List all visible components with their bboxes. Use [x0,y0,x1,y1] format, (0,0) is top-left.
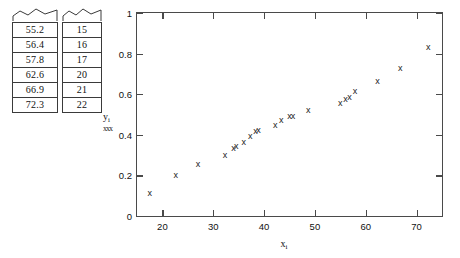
y-axis-tick [137,135,143,136]
y-axis-tick-label: 0.6 [119,89,132,100]
data-point-marker: x [240,139,247,146]
table-row: 15 [62,22,102,38]
y-axis-tick [436,54,442,55]
y-axis-tick [436,13,442,14]
data-point-marker: x [374,78,381,85]
y-axis-tick-label: 1 [127,8,132,19]
y-axis-tick [436,175,442,176]
data-point-marker: x [230,145,237,152]
data-point-marker: x [337,100,344,107]
x-axis-tick [315,210,316,216]
table-row: 20 [62,68,102,83]
y-axis-tick [137,94,143,95]
y-axis-label: yi xxx [103,112,112,133]
x-axis-tick [213,210,214,216]
x-axis-tick [162,13,163,19]
table-row: 16 [62,38,102,53]
table-row: 57.8 [12,53,58,68]
data-point-marker: x [272,122,279,129]
y-axis-tick [137,175,143,176]
x-axis-tick [213,13,214,19]
data-point-marker: x [278,117,285,124]
data-point-marker: x [346,94,353,101]
y-axis-tick [436,94,442,95]
data-point-marker: x [290,113,297,120]
data-point-marker: x [252,128,259,135]
x-axis-tick [264,13,265,19]
table-row: 66.9 [12,83,58,98]
y-axis-tick-label: 0.8 [119,48,132,59]
table-row: 62.6 [12,68,58,83]
y-axis-tick [436,216,442,217]
scatter-plot: 00.20.40.60.81203040506070xxxxxxxxxxxxxx… [136,12,443,217]
x-axis-tick [417,13,418,19]
x-axis-tick [162,210,163,216]
data-point-marker: x [397,65,404,72]
x-axis-tick-label: 40 [259,221,270,232]
table-row: 17 [62,53,102,68]
x-axis-tick-label: 30 [208,221,219,232]
data-point-marker: x [352,88,359,95]
x-axis-tick [264,210,265,216]
x-values-strip: 55.2 56.4 57.8 62.6 66.9 72.3 [12,8,58,113]
x-axis-tick [417,210,418,216]
y-axis-tick-label: 0.4 [119,129,132,140]
table-row: 22 [62,98,102,113]
data-point-marker: x [221,152,228,159]
y-axis-tick [436,135,442,136]
x-axis-tick [315,13,316,19]
y-axis-tick [137,54,143,55]
x-axis-tick-label: 70 [411,221,422,232]
x-axis-tick-label: 20 [157,221,168,232]
table-row: 72.3 [12,98,58,113]
data-point-marker: x [172,172,179,179]
data-point-marker: x [247,133,254,140]
torn-edge-icon [12,8,58,22]
x-axis-tick [366,210,367,216]
data-point-marker: x [425,44,432,51]
y-axis-tick-label: 0 [127,211,132,222]
data-point-marker: x [305,107,312,114]
data-point-marker: x [233,143,240,150]
data-point-marker: x [342,96,349,103]
index-values-strip: 15 16 17 20 21 22 [62,8,102,113]
x-axis-label: xi [281,238,288,251]
smudge-mark: xxx [103,125,112,133]
table-row: 55.2 [12,22,58,38]
x-axis-tick [366,13,367,19]
table-row: 56.4 [12,38,58,53]
table-row: 21 [62,83,102,98]
data-point-marker: x [195,161,202,168]
data-point-marker: x [146,190,153,197]
torn-edge-icon [62,8,102,22]
data-point-marker: x [255,127,262,134]
x-axis-tick-label: 50 [310,221,321,232]
y-axis-tick [137,216,143,217]
data-point-marker: x [286,113,293,120]
y-axis-tick-label: 0.2 [119,170,132,181]
y-axis-tick [137,13,143,14]
x-axis-tick-label: 60 [360,221,371,232]
